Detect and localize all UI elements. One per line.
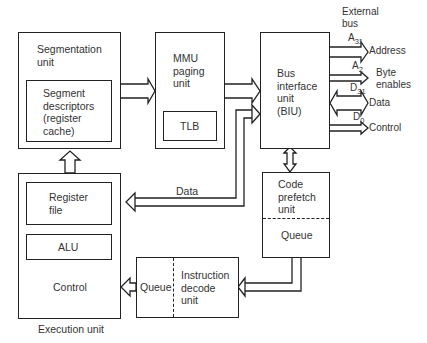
byte-enables-label: Byte enables <box>376 67 411 91</box>
bus-interface-unit-label: Bus interface unit (BIU) <box>277 67 317 117</box>
tlb-label: TLB <box>180 120 199 133</box>
control-label: Control <box>53 281 87 294</box>
execution-unit-block: Register file ALU Control <box>18 173 121 319</box>
control-bus-label: Control <box>369 122 401 135</box>
instruction-decode-unit-block: Queue Instruction decode unit <box>136 257 239 318</box>
exec-to-seg-arrow <box>60 151 80 173</box>
prefetch-queue-label: Queue <box>281 229 313 242</box>
mmu-paging-unit-block: MMU paging unit TLB <box>155 32 225 149</box>
register-file-label: Register file <box>49 191 88 216</box>
prefetch-to-decode-arrow <box>245 257 292 283</box>
data-connection-label: Data <box>176 185 198 198</box>
data-arrowhead-left <box>126 193 135 211</box>
code-prefetch-unit-block: Code prefetch unit Queue <box>262 172 330 258</box>
alu-block: ALU <box>26 234 112 260</box>
d0-label: D0 <box>353 111 364 128</box>
a2-label: A2 <box>352 60 363 77</box>
mmu-to-biu-arrow <box>224 79 260 103</box>
data-bus-label: Data <box>369 97 390 110</box>
decode-queue-label: Queue <box>140 281 172 294</box>
data-arrowhead-right <box>252 105 260 123</box>
a31-label: A31 <box>348 32 363 49</box>
segmentation-unit-label: Segmentation unit <box>37 43 102 68</box>
segment-descriptors-block: Segment descriptors (register cache) <box>26 80 112 142</box>
register-file-block: Register file <box>26 182 112 225</box>
biu-prefetch-arrow <box>284 147 296 172</box>
bus-interface-unit-block: Bus interface unit (BIU) <box>260 32 330 149</box>
d31-label: D31 <box>350 82 366 99</box>
execution-unit-label: Execution unit <box>38 323 104 336</box>
instruction-decode-unit-label: Instruction decode unit <box>181 269 229 307</box>
mmu-paging-unit-label: MMU paging unit <box>173 52 205 90</box>
seg-to-mmu-arrow <box>120 79 155 103</box>
address-label: Address <box>369 45 406 58</box>
segmentation-unit-block: Segmentation unit Segment descriptors (r… <box>18 32 121 149</box>
decode-divider <box>173 258 174 317</box>
external-bus-label: External bus <box>342 6 379 30</box>
prefetch-divider <box>263 218 329 219</box>
segment-descriptors-label: Segment descriptors (register cache) <box>43 87 94 137</box>
decode-to-control-arrow <box>121 278 136 296</box>
code-prefetch-unit-label: Code prefetch unit <box>278 178 316 216</box>
tlb-block: TLB <box>163 111 217 141</box>
alu-label: ALU <box>58 241 78 254</box>
